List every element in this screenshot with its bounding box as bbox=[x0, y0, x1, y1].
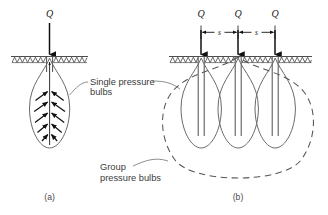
single-bulbs-label-line1: Single pressure bbox=[90, 77, 155, 87]
panel-b-spacing-label-2: s bbox=[255, 28, 258, 37]
pressure-bulb-diagram: Q bbox=[0, 0, 328, 215]
figure-container: Q bbox=[0, 0, 328, 215]
panel-b-load-label-1: Q bbox=[197, 8, 205, 19]
panel-b-load-label-2: Q bbox=[234, 8, 242, 19]
panel-b-load-label-3: Q bbox=[271, 8, 279, 19]
single-bulbs-label-line2: bulbs bbox=[90, 87, 113, 97]
group-bulbs-label-line2: pressure bulbs bbox=[100, 173, 161, 183]
panel-b-spacing-label-1: s bbox=[218, 28, 221, 37]
panel-a-load-label: Q bbox=[46, 8, 54, 19]
group-bulbs-label-line1: Group bbox=[100, 162, 126, 172]
panel-b-caption: (b) bbox=[233, 192, 244, 202]
panel-a-caption: (a) bbox=[44, 192, 55, 202]
